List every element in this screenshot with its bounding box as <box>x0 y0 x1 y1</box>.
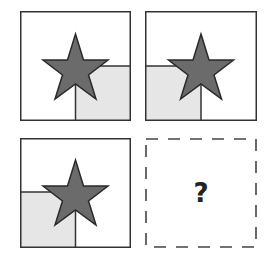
panel-1-graphic <box>20 11 131 121</box>
panel-2 <box>145 11 257 121</box>
question-mark: ? <box>145 138 257 248</box>
panel-2-graphic <box>145 11 257 121</box>
panel-3 <box>20 138 131 248</box>
panel-4-answer-slot[interactable]: ? <box>145 138 257 248</box>
panel-3-graphic <box>20 138 131 248</box>
panel-1 <box>20 11 131 121</box>
